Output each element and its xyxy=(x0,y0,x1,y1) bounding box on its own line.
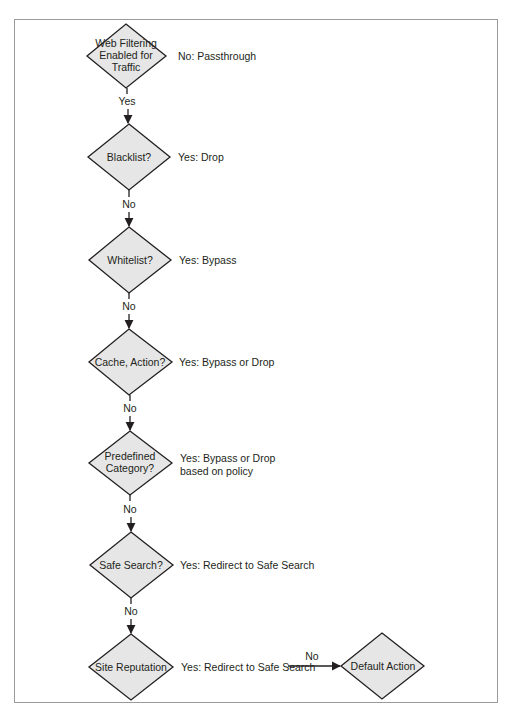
edge-no-to-predefined: No xyxy=(123,395,137,430)
node-label: Traffic xyxy=(112,61,141,73)
node-label: Cache, Action? xyxy=(95,356,166,368)
edge-label: Yes xyxy=(118,95,135,107)
edge-no-to-safe-search: No xyxy=(123,495,137,531)
decision-cache-action: Cache, Action? Yes: Bypass or Drop xyxy=(89,329,274,395)
edge-label: No xyxy=(305,650,319,662)
node-label: Safe Search? xyxy=(99,559,163,571)
edge-yes-to-blacklist: Yes xyxy=(118,88,135,123)
decision-web-filtering: Web Filtering Enabled for Traffic No: Pa… xyxy=(87,24,256,88)
node-label: Blacklist? xyxy=(107,151,152,163)
side-label: Yes: Bypass xyxy=(179,254,236,266)
edge-label: No xyxy=(122,300,136,312)
side-label: Yes: Bypass or Drop xyxy=(179,356,274,368)
node-label: Enabled for xyxy=(99,49,153,61)
flowchart: Web Filtering Enabled for Traffic No: Pa… xyxy=(0,0,511,719)
side-label: Yes: Redirect to Safe Search xyxy=(180,559,315,571)
decision-whitelist: Whitelist? Yes: Bypass xyxy=(89,227,236,293)
side-label: based on policy xyxy=(180,465,254,477)
terminal-default-action: Default Action xyxy=(341,633,424,699)
node-label: Site Reputation xyxy=(95,661,167,673)
decision-safe-search: Safe Search? Yes: Redirect to Safe Searc… xyxy=(90,532,315,598)
node-label: Web Filtering xyxy=(95,37,157,49)
edge-no-to-site-reputation: No xyxy=(124,598,138,633)
side-label: Yes: Bypass or Drop xyxy=(180,452,275,464)
edge-label: No xyxy=(124,605,138,617)
node-label: Default Action xyxy=(351,660,416,672)
edge-no-to-cache: No xyxy=(122,293,136,328)
decision-predefined-category: Predefined Category? Yes: Bypass or Drop… xyxy=(89,431,275,495)
edge-label: No xyxy=(122,198,136,210)
side-label: No: Passthrough xyxy=(178,50,256,62)
side-label: Yes: Drop xyxy=(178,151,224,163)
node-label: Category? xyxy=(106,462,155,474)
node-label: Predefined xyxy=(105,450,156,462)
node-label: Whitelist? xyxy=(107,254,153,266)
edge-label: No xyxy=(123,503,137,515)
decision-blacklist: Blacklist? Yes: Drop xyxy=(88,124,224,190)
decision-site-reputation: Site Reputation Yes: Redirect to Safe Se… xyxy=(89,634,316,700)
side-label: Yes: Redirect to Safe Search xyxy=(181,661,316,673)
edge-no-to-whitelist: No xyxy=(122,190,136,226)
edge-label: No xyxy=(123,402,137,414)
